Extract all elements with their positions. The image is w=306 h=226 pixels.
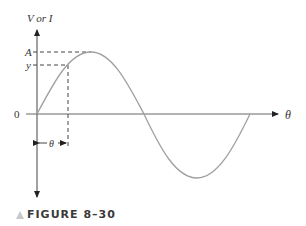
label-amplitude: A [24, 46, 32, 58]
label-y-axis: V or I [27, 12, 54, 24]
label-origin: 0 [14, 108, 20, 120]
figure-caption: FIGURE 8–30 [16, 208, 116, 221]
caption-text: FIGURE 8–30 [27, 208, 116, 221]
label-theta-span: θ [49, 138, 54, 149]
sine-wave-diagram: θ V or I A y 0 θ [0, 0, 306, 226]
label-y: y [25, 59, 31, 71]
sine-curve [37, 52, 250, 178]
label-x-axis: θ [285, 108, 291, 122]
triangle-icon [16, 211, 24, 219]
